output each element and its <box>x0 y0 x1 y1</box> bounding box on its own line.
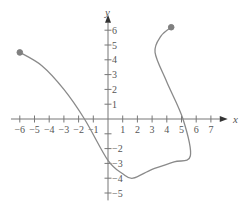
y-tick-label: −5 <box>112 188 123 199</box>
x-tick-label: −4 <box>44 124 55 135</box>
y-tick-label: 3 <box>112 69 117 80</box>
function-curve <box>20 27 191 178</box>
x-tick-label: −6 <box>14 124 25 135</box>
y-tick-label: −4 <box>112 173 123 184</box>
y-tick-label: 1 <box>112 99 117 110</box>
x-axis-arrow-icon <box>220 116 228 122</box>
tick-labels: −6−5−4−3−2−11234567654321−2−3−4−5 <box>14 25 213 199</box>
y-tick-label: −2 <box>112 143 123 154</box>
endpoint-dots <box>17 24 174 55</box>
function-graph: −6−5−4−3−2−11234567654321−2−3−4−5 x y <box>0 0 250 203</box>
x-tick-label: −2 <box>73 124 84 135</box>
x-tick-label: 3 <box>150 124 155 135</box>
x-tick-label: 7 <box>208 124 213 135</box>
x-tick-label: 4 <box>164 124 169 135</box>
x-tick-label: 6 <box>194 124 199 135</box>
x-tick-label: 5 <box>179 124 184 135</box>
x-tick-label: −3 <box>59 124 70 135</box>
y-tick-label: 2 <box>112 84 117 95</box>
x-tick-label: 2 <box>135 124 140 135</box>
x-tick-label: −5 <box>29 124 40 135</box>
y-tick-label: 5 <box>112 40 117 51</box>
y-axis-label: y <box>104 6 110 18</box>
y-tick-label: 4 <box>112 54 117 65</box>
endpoint-dot-icon <box>168 24 174 30</box>
y-tick-label: 6 <box>112 25 117 36</box>
endpoint-dot-icon <box>17 50 23 56</box>
x-axis-label: x <box>232 113 238 125</box>
x-tick-label: 1 <box>120 124 125 135</box>
